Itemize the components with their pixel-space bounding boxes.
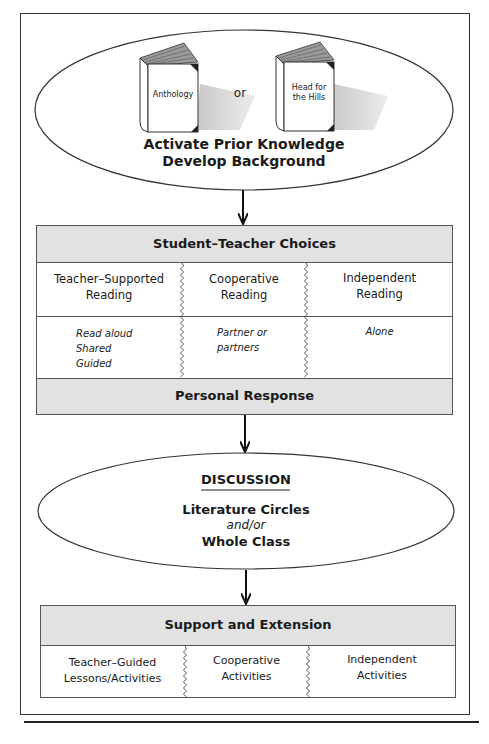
discussion-heading: DISCUSSION (38, 472, 454, 487)
discussion-line2: and/or (38, 518, 454, 532)
detail-item: Shared (76, 341, 132, 356)
choice-column-independent: Independent Reading (306, 270, 453, 302)
support-line1: Teacher–Guided (64, 655, 162, 671)
support-column-cooperative: Cooperative Activities (185, 653, 308, 685)
column-title-line1: Independent (343, 270, 416, 286)
support-line2: Lessons/Activities (64, 671, 162, 687)
detail-item: Alone (306, 324, 453, 339)
support-line1: Independent (347, 652, 417, 668)
detail-item: Partner or (217, 325, 267, 340)
choices-header-label: Student–Teacher Choices (36, 236, 453, 251)
book-label-anthology: Anthology (148, 90, 198, 99)
title-line1: Activate Prior Knowledge (40, 136, 448, 153)
book-title-line1: Head for (284, 83, 334, 93)
column-title-line1: Teacher–Supported (54, 271, 164, 287)
book-label-head-for-the-hills: Head for the Hills (284, 83, 334, 103)
discussion-line1: Literature Circles (38, 502, 454, 517)
choice-details-independent: Alone (306, 324, 453, 339)
support-line2: Activities (213, 669, 280, 685)
column-title-line2: Reading (54, 287, 164, 303)
column-title-line1: Cooperative (209, 271, 279, 287)
detail-item: Read aloud (76, 326, 132, 341)
detail-item: Guided (76, 356, 132, 371)
detail-item: partners (217, 340, 267, 355)
support-column-independent: Independent Activities (308, 652, 456, 684)
book-title-line2: the Hills (284, 93, 334, 103)
support-line2: Activities (347, 668, 417, 684)
connector-or: or (225, 86, 255, 100)
choice-column-teacher-supported: Teacher–Supported Reading (36, 271, 182, 303)
support-header-label: Support and Extension (40, 617, 456, 632)
book-title: Anthology (153, 90, 194, 99)
title-line2: Develop Background (40, 153, 448, 170)
choice-column-cooperative: Cooperative Reading (182, 271, 306, 303)
choice-details-teacher-supported: Read aloud Shared Guided (76, 326, 132, 371)
discussion-line3: Whole Class (38, 534, 454, 549)
top-node-title: Activate Prior Knowledge Develop Backgro… (40, 136, 448, 170)
column-title-line2: Reading (209, 287, 279, 303)
column-title-line2: Reading (343, 286, 416, 302)
personal-response-label: Personal Response (36, 388, 453, 403)
support-column-teacher-guided: Teacher–Guided Lessons/Activities (40, 655, 185, 687)
support-line1: Cooperative (213, 653, 280, 669)
choice-details-cooperative: Partner or partners (217, 325, 267, 355)
